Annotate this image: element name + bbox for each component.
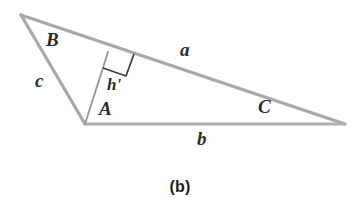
vertex-label-A: A: [99, 99, 112, 118]
altitude-label-h-prime: h': [107, 76, 121, 93]
side-label-b: b: [197, 129, 207, 148]
figure-panel: B A C a b c h' (b): [0, 0, 360, 210]
figure-caption: (b): [0, 178, 360, 196]
right-angle-marker-icon: [103, 54, 134, 76]
side-label-a: a: [180, 40, 190, 59]
vertex-label-B: B: [46, 30, 59, 49]
triangle-side-a: [21, 15, 345, 124]
side-label-c: c: [35, 71, 43, 90]
vertex-label-C: C: [258, 97, 271, 116]
